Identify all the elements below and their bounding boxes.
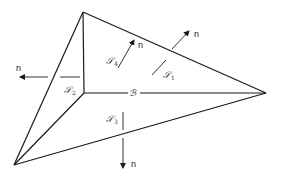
normal-s4-arrow [118, 40, 134, 68]
normal-s1-label: n [194, 29, 199, 39]
volume-label: ℬ [129, 88, 137, 98]
surface-s2-subscript: 2 [72, 89, 76, 96]
surface-s4-subscript: 4 [114, 60, 118, 67]
edge-top-inner [83, 12, 84, 93]
normal-s4-label: n [138, 40, 143, 50]
normal-s2-label: n [16, 63, 21, 73]
surface-s1-subscript: 1 [171, 74, 175, 81]
normal-s3-label: n [131, 159, 136, 169]
tetrahedron-diagram: ℬ n 𝒮 1 n 𝒮 4 n 𝒮 2 n 𝒮 3 [0, 0, 281, 178]
edge-bottomleft-right [14, 93, 266, 165]
surface-s3-subscript: 3 [114, 118, 118, 125]
normal-s1-arrow [172, 31, 189, 49]
edge-inner-bottomleft [14, 93, 84, 165]
outer-edges [14, 12, 266, 165]
inner-edges [14, 12, 266, 165]
